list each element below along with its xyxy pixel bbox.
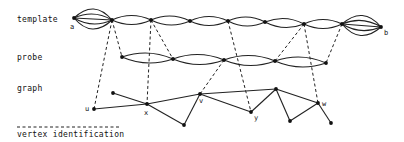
vertex-v xyxy=(198,92,202,96)
probe-edge xyxy=(224,60,275,66)
identification-line xyxy=(94,20,112,109)
vertex-x xyxy=(145,102,149,106)
vertex-p2 xyxy=(171,57,175,61)
identification-line xyxy=(147,20,151,104)
vertex-label-v: v xyxy=(199,97,203,105)
vertex-g1 xyxy=(111,91,115,95)
vertex-p3 xyxy=(222,58,226,62)
vertex-t4 xyxy=(226,19,230,23)
vertex-identification-diagram: template probe graph vertex identificati… xyxy=(0,0,404,142)
template-edge xyxy=(151,20,190,25)
template-multi-edge xyxy=(74,18,112,20)
vertex-t6 xyxy=(302,22,306,26)
graph-edge xyxy=(200,94,251,112)
vertex-t5 xyxy=(263,20,267,24)
nodes-layer xyxy=(72,16,383,127)
template-edge xyxy=(304,24,342,29)
template-row-label: template xyxy=(17,15,58,24)
probe-edge xyxy=(224,55,275,61)
vertex-label-x: x xyxy=(144,109,148,117)
identification-line xyxy=(275,24,304,61)
legend-label: vertex identification xyxy=(17,130,124,139)
graph-edge xyxy=(94,104,147,109)
vertex-label-b: b xyxy=(384,29,388,37)
template-edge xyxy=(228,17,265,22)
vertex-t1 xyxy=(110,18,114,22)
template-edge xyxy=(112,16,151,21)
template-edge xyxy=(190,21,228,26)
vertex-t3 xyxy=(188,19,192,23)
vertex-u xyxy=(92,107,96,111)
graph-edge xyxy=(276,89,290,121)
identification-line xyxy=(200,60,224,94)
vertex-y xyxy=(249,110,253,114)
graph-edge xyxy=(147,104,184,125)
identification-line xyxy=(326,24,342,63)
identification-line xyxy=(112,20,122,57)
template-edge xyxy=(151,16,190,21)
vertex-g3 xyxy=(274,87,278,91)
graph-row-label: graph xyxy=(17,84,43,93)
vertex-p5 xyxy=(324,61,328,65)
graph-edge xyxy=(251,89,276,112)
graph-edge xyxy=(200,89,276,94)
vertex-label-u: u xyxy=(85,105,89,113)
probe-edge xyxy=(122,57,173,63)
template-edge xyxy=(112,20,151,25)
template-edge xyxy=(265,18,304,24)
vertex-a xyxy=(72,16,76,20)
probe-edge xyxy=(173,54,224,60)
vertex-g2 xyxy=(182,123,186,127)
probe-edge xyxy=(275,57,326,63)
graph-edge xyxy=(290,103,318,121)
template-edge xyxy=(265,22,304,28)
probe-edge xyxy=(173,59,224,65)
vertex-label-w: w xyxy=(322,100,327,108)
graph-edge xyxy=(184,94,200,125)
graph-edge xyxy=(147,94,200,104)
probe-edge xyxy=(122,53,173,59)
vertex-b xyxy=(379,25,383,29)
probe-edge xyxy=(275,61,326,67)
vertex-t2 xyxy=(149,18,153,22)
graph-edge xyxy=(113,93,147,104)
template-edge xyxy=(190,17,228,22)
vertex-t7 xyxy=(340,22,344,26)
vertex-g4 xyxy=(288,119,292,123)
vertex-label-a: a xyxy=(70,23,74,31)
probe-row-label: probe xyxy=(17,53,43,62)
template-edge xyxy=(228,21,265,26)
edges-layer xyxy=(74,9,381,125)
template-edge xyxy=(304,20,342,25)
identification-line xyxy=(228,21,251,112)
graph-edge xyxy=(276,89,318,103)
vertex-g5 xyxy=(329,121,333,125)
vertex-p1 xyxy=(120,55,124,59)
vertex-w xyxy=(316,101,320,105)
identification-line xyxy=(304,24,318,103)
vertex-p4 xyxy=(273,59,277,63)
vertex-label-y: y xyxy=(254,114,258,122)
